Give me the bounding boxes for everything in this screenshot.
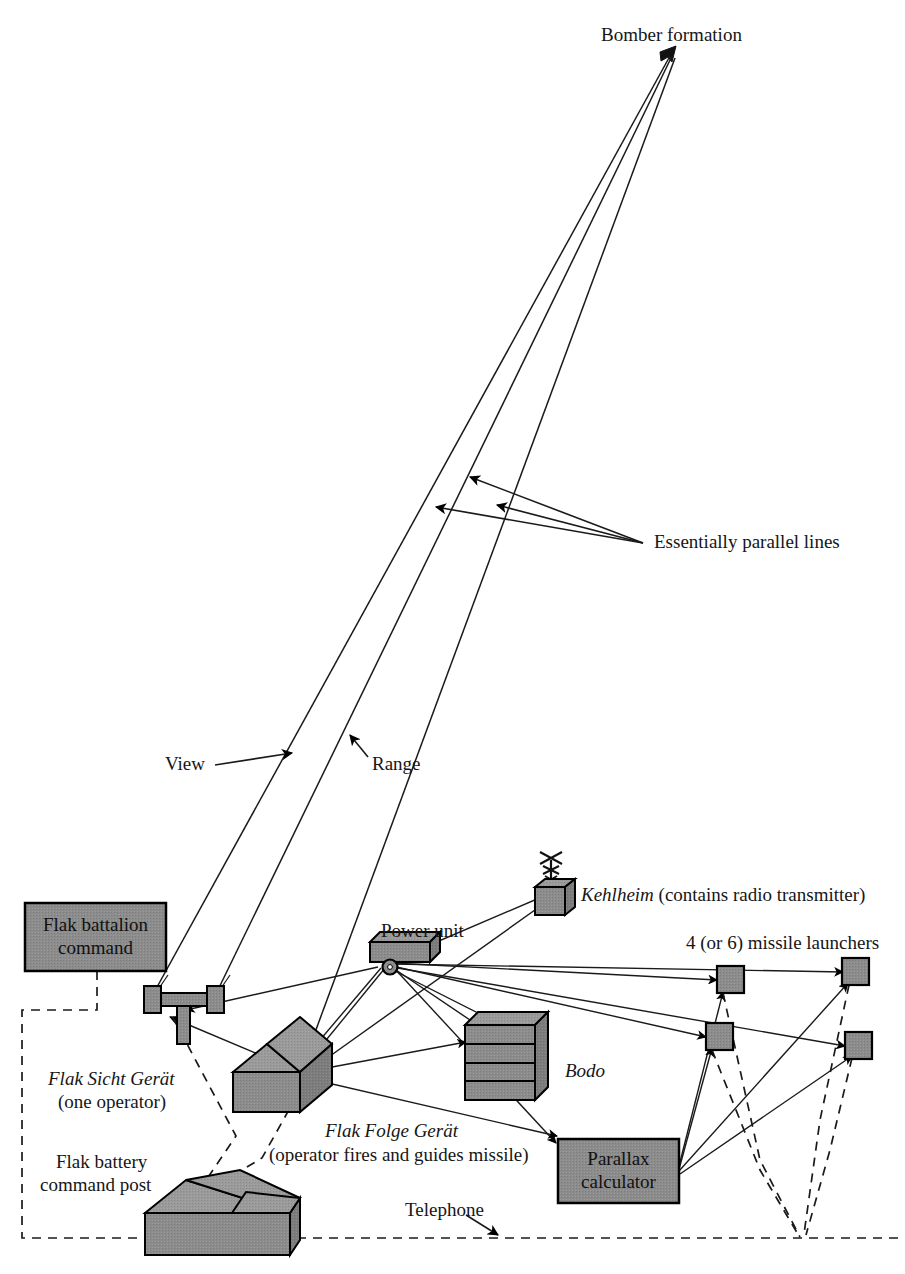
essentially-parallel-lines-label: Essentially parallel lines [654,531,840,553]
phone-line-launcher-4-down [806,1058,852,1235]
flak-folge-gerat-note-label: (operator fires and guides missile) [269,1144,529,1166]
parallax-cables [678,983,852,1174]
launcher-4 [845,1032,872,1059]
diagram-canvas: Bomber formation Essentially parallel li… [0,0,905,1274]
view-label: View [165,753,205,775]
launcher-1 [717,966,744,993]
flak-sicht-gerat-name-label: Flak Sicht Gerät [48,1068,175,1090]
parallax-calculator-box[interactable] [558,1139,679,1203]
missile-launchers-label: 4 (or 6) missile launchers [686,932,879,954]
parallel-arrow-2 [497,505,643,543]
range-label: Range [372,753,421,775]
phone-line-launcher-1-down [723,993,800,1237]
missile-launchers-group[interactable] [706,958,872,1059]
kehlheim-name: Kehlheim [581,884,654,905]
flak-sicht-gerat-note-label: (one operator) [58,1091,166,1113]
cable-power-to-launcher-2 [392,964,843,972]
cable-parallax-to-launcher-3 [678,1048,712,1173]
launcher-2 [842,958,869,985]
launcher-3 [706,1023,733,1050]
flak-battalion-command-box[interactable] [25,903,166,971]
flak-folge-gerat-hut[interactable] [233,1017,332,1112]
kehlheim-label: Kehlheim (contains radio transmitter) [581,884,865,906]
telephone-label: Telephone [405,1199,484,1221]
flak-battery-command-post-hut[interactable] [145,1170,300,1255]
view-line [151,56,670,998]
flak-battery-command-post-line-1: Flak battery [56,1151,147,1173]
bodo-label: Bodo [565,1060,605,1082]
flak-battery-command-post-line-2: command post [40,1174,151,1196]
power-unit-label: Power unit [381,920,464,942]
range-callout-arrow [350,735,368,757]
parallel-arrow-1 [470,477,643,543]
parallel-arrow-3 [436,507,643,543]
bodo-cabinet[interactable] [465,1012,548,1100]
flak-folge-gerat-name-label: Flak Folge Gerät [325,1120,458,1142]
bomber-formation-label: Bomber formation [601,24,742,46]
cable-power-to-launcher-4 [392,967,845,1046]
kehlheim-note: (contains radio transmitter) [654,884,866,905]
kehlheim-radio-box[interactable] [535,852,575,915]
parallel-lines-callout [436,477,643,543]
view-range-callouts [215,735,368,765]
phone-line-launcher-2-down [804,985,849,1234]
